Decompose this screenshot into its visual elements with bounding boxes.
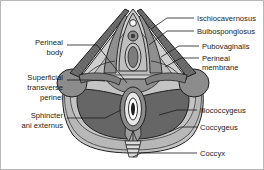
label-coccygeus: Coccygeus — [200, 123, 238, 133]
clitoris — [130, 20, 137, 27]
label-bulbospongiosus: Bulbospongiosus — [197, 27, 255, 37]
leader-coccyx — [133, 153, 197, 157]
label-ischiocavernosus: Ischiocavernosus — [197, 14, 256, 24]
label-superficial-transverse-perinei-line1: Superficial — [1, 73, 63, 83]
label-sphincter-ani-externus-line2: ani externus — [1, 121, 63, 131]
vaginal-opening-inner — [128, 47, 138, 68]
label-pubovaginalis: Pubovaginalis — [202, 42, 250, 52]
label-perineal-membrane-line2: membrane — [202, 63, 238, 73]
label-superficial-transverse-perinei-line2: transverse — [1, 83, 63, 93]
label-iliococcygeus: Iliococcygeus — [200, 106, 246, 116]
label-superficial-transverse-perinei-line3: perinei — [1, 93, 63, 103]
figure-frame: Ischiocavernosus Bulbospongiosus Pubovag… — [0, 0, 264, 170]
urethral-opening-inner — [131, 34, 135, 38]
leader-ischiocavernosus — [151, 18, 194, 29]
label-perineal-body-line1: Perineal — [1, 38, 63, 48]
label-sphincter-ani-externus-line1: Sphincter — [1, 111, 63, 121]
label-perineal-body-line2: body — [1, 48, 63, 58]
label-coccyx: Coccyx — [200, 149, 225, 159]
anal-orifice — [131, 103, 135, 116]
